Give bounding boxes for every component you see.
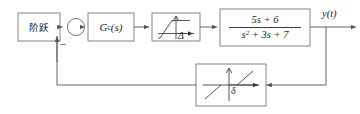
summing-junction-negative-sign: − [60,38,67,50]
source-block-outline [18,13,60,41]
plant-numerator: 5s + 6 [248,14,283,27]
plant-denominator-rest: + 3s + 7 [249,29,288,40]
feedback-delta-label: δ [231,85,236,96]
block-diagram-canvas: 阶跃 Gc(s) Δ 5s + 6 s2 + 3s + 7 δ − y(t) [0,0,360,114]
summing-junction-circle [68,19,85,36]
wire-feedback-return [57,38,196,85]
controller-block-outline [88,13,134,41]
saturation-delta-label: Δ [178,30,184,41]
output-signal-label: y(t) [322,8,337,19]
deadzone-lower-branch [205,85,221,99]
plant-denominator: s2 + 3s + 7 [238,28,293,41]
deadzone-upper-branch [237,71,253,85]
saturation-curve-group [158,16,194,39]
plant-transfer-function: 5s + 6 s2 + 3s + 7 [220,9,310,46]
saturation-characteristic [158,21,190,39]
